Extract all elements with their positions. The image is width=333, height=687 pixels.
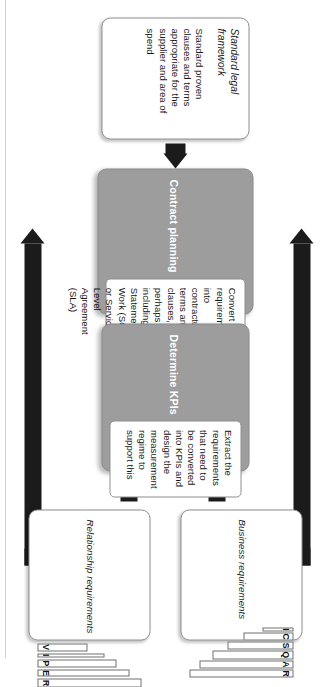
node-relationship-requirements: Relationship requirements VIPER [28, 509, 150, 640]
node-determine-kpis: Determine KPIs Extract the requirements … [101, 323, 249, 471]
determine-kpis-body: Extract the requirements that need to be… [123, 429, 233, 488]
bar-r-5: R [189, 669, 293, 677]
bar-i-1: I [37, 653, 104, 657]
relationship-requirements-title: Relationship requirements [83, 519, 95, 633]
node-contract-planning: Contract planning Convert requirements i… [97, 168, 253, 314]
node-business-requirements: Business requirements ICSQAR [180, 509, 302, 640]
bar-label: R [280, 670, 292, 676]
determine-kpis-title: Determine KPIs [109, 330, 241, 420]
bar-label: Q [280, 651, 292, 658]
bar-p-2: P [37, 659, 116, 667]
bar-label: C [280, 633, 292, 639]
bar-label: I [38, 654, 50, 656]
bar-i-0: I [262, 627, 293, 631]
legal-framework-body: Standard proven clauses and terms approp… [143, 28, 204, 128]
bar-label: R [38, 679, 50, 685]
determine-kpis-card: Extract the requirements that need to be… [109, 420, 241, 497]
bar-label: P [38, 660, 50, 666]
business-requirements-title: Business requirements [235, 519, 247, 619]
bar-c-1: C [243, 632, 293, 640]
bar-label: V [38, 644, 50, 650]
bar-label: E [38, 670, 50, 676]
bar-label: A [280, 661, 292, 667]
relationship-requirements-chart: VIPER [37, 643, 141, 687]
node-standard-legal-framework: Standard legal framework Standard proven… [101, 17, 249, 139]
bar-a-4: A [199, 660, 293, 668]
bar-s-2: S [227, 641, 293, 649]
contract-planning-title: Contract planning [105, 175, 245, 278]
bar-q-3: Q [212, 650, 293, 659]
bar-label: I [280, 628, 292, 630]
bar-e-3: E [37, 669, 129, 677]
bar-v-0: V [37, 643, 87, 651]
business-requirements-chart: ICSQAR [189, 627, 293, 677]
bar-label: S [280, 642, 292, 648]
bar-r-4: R [37, 678, 141, 686]
legal-framework-title: Standard legal framework [214, 28, 240, 128]
